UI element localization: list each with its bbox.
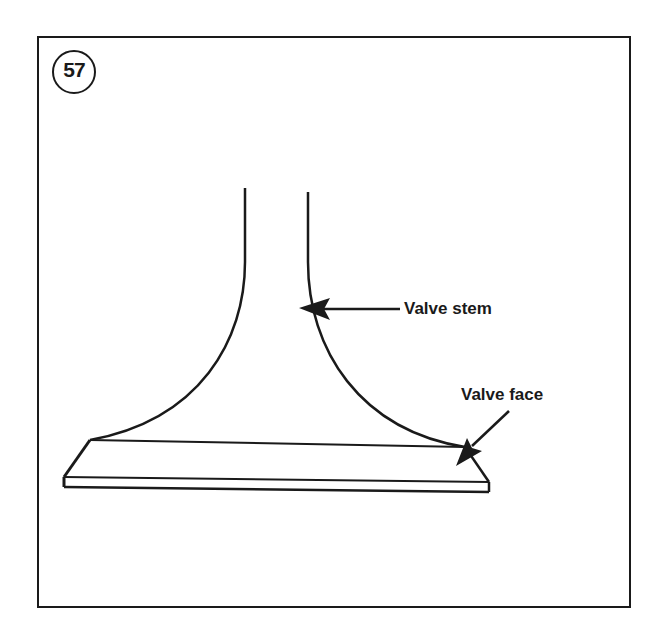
valve-margin-bottom [64,487,489,492]
valve-face-arrow-shaft [472,411,509,446]
valve-stem-right-edge [308,192,465,447]
valve-face-label: Valve face [461,385,543,405]
figure-number: 57 [52,58,96,82]
valve-drawing [0,0,661,640]
valve-stem-label: Valve stem [404,299,492,319]
valve-margin-top [64,477,489,482]
valve-face-left [64,440,90,477]
valve-head-top [90,440,465,447]
valve-face-arrow-icon [456,438,482,466]
valve-stem-left-edge [90,188,245,440]
